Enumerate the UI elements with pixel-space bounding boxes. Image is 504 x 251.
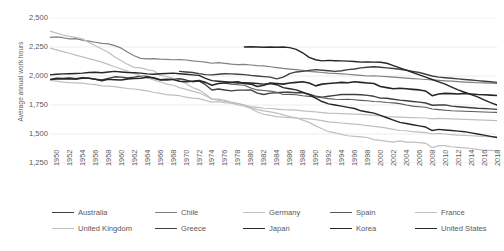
legend-item-chile[interactable]: Chile: [155, 209, 198, 217]
y-axis-tick-label: 2,250: [4, 43, 48, 51]
legend-swatch-icon: [330, 212, 352, 213]
legend-swatch-icon: [243, 212, 265, 213]
x-axis-tick-label: 1964: [144, 150, 151, 166]
x-axis-tick-label: 2010: [442, 150, 449, 166]
y-axis-tick-label: 2,500: [4, 14, 48, 22]
x-axis-tick-label: 1958: [105, 150, 112, 166]
legend-item-japan[interactable]: Japan: [243, 225, 290, 233]
legend-swatch-icon: [330, 228, 352, 229]
legend-label: Chile: [181, 209, 198, 217]
legend-item-greece[interactable]: Greece: [155, 225, 206, 233]
x-axis-tick-label: 2000: [377, 150, 384, 166]
legend-row: United KingdomGreeceJapanKoreaUnited Sta…: [0, 222, 504, 239]
legend-swatch-icon: [52, 228, 74, 229]
y-axis-tick-label: 1,500: [4, 130, 48, 138]
legend-label: Australia: [78, 209, 108, 217]
x-axis-tick-label: 1952: [66, 150, 73, 166]
x-axis-tick-label: 2004: [403, 150, 410, 166]
y-axis-tick-label: 1,750: [4, 101, 48, 109]
legend-swatch-icon: [415, 212, 437, 213]
legend-item-germany[interactable]: Germany: [243, 209, 300, 217]
plot-svg: [50, 18, 497, 163]
work-hours-line-chart: Average annual work hours 2,5002,2502,00…: [0, 0, 504, 251]
legend-swatch-icon: [243, 228, 265, 229]
x-axis-tick-label: 2018: [494, 150, 501, 166]
y-axis-tick-label: 2,000: [4, 72, 48, 80]
x-axis-tick-label: 2014: [468, 150, 475, 166]
legend-label: France: [441, 209, 465, 217]
legend-swatch-icon: [155, 212, 177, 213]
legend-label: Korea: [356, 225, 376, 233]
series-line-germany: [50, 31, 497, 151]
x-axis-tick-label: 2008: [429, 150, 436, 166]
y-axis-tick-label: 1,250: [4, 159, 48, 167]
x-axis-tick-label: 1966: [157, 150, 164, 166]
plot-area: [50, 18, 497, 163]
x-axis-tick-label: 1970: [183, 150, 190, 166]
x-axis-tick-label: 2012: [455, 150, 462, 166]
x-axis-tick-label: 1960: [118, 150, 125, 166]
series-line-australia: [50, 76, 497, 109]
x-axis-tick-label: 1954: [79, 150, 86, 166]
x-axis-tick-label: 1992: [325, 150, 332, 166]
chart-legend: AustraliaChileGermanySpainFranceUnited K…: [0, 206, 504, 248]
x-axis-tick-label: 1996: [351, 150, 358, 166]
x-axis-tick-label: 2002: [390, 150, 397, 166]
legend-swatch-icon: [155, 228, 177, 229]
x-axis-tick-label: 1974: [208, 150, 215, 166]
x-axis-tick-label: 1956: [92, 150, 99, 166]
y-axis-title: Average annual work hours: [17, 17, 24, 147]
legend-row: AustraliaChileGermanySpainFrance: [0, 206, 504, 223]
legend-item-united-states[interactable]: United States: [415, 225, 487, 233]
x-axis-tick-labels: 1950195219541956195819601962196419661968…: [50, 166, 497, 202]
x-axis-tick-label: 1984: [273, 150, 280, 166]
x-axis-tick-label: 1998: [364, 150, 371, 166]
legend-label: Greece: [181, 225, 206, 233]
legend-label: Spain: [356, 209, 375, 217]
x-axis-tick-label: 1986: [286, 150, 293, 166]
legend-swatch-icon: [415, 228, 437, 229]
legend-swatch-icon: [52, 212, 74, 213]
legend-label: Germany: [269, 209, 300, 217]
x-axis-tick-label: 1962: [131, 150, 138, 166]
x-axis-tick-label: 1968: [170, 150, 177, 166]
legend-item-france[interactable]: France: [415, 209, 465, 217]
legend-label: United Kingdom: [78, 225, 132, 233]
x-axis-tick-label: 1994: [338, 150, 345, 166]
x-axis-tick-label: 1950: [53, 150, 60, 166]
x-axis-tick-label: 2006: [416, 150, 423, 166]
x-axis-tick-label: 2016: [481, 150, 488, 166]
x-axis-tick-label: 1980: [247, 150, 254, 166]
x-axis-tick-label: 1982: [260, 150, 267, 166]
legend-item-united-kingdom[interactable]: United Kingdom: [52, 225, 132, 233]
x-axis-tick-label: 1976: [221, 150, 228, 166]
legend-label: Japan: [269, 225, 290, 233]
x-axis-tick-label: 1978: [234, 150, 241, 166]
legend-item-australia[interactable]: Australia: [52, 209, 108, 217]
legend-item-korea[interactable]: Korea: [330, 225, 376, 233]
legend-label: United States: [441, 225, 487, 233]
legend-item-spain[interactable]: Spain: [330, 209, 375, 217]
series-line-united-kingdom: [50, 81, 497, 121]
series-line-greece: [180, 67, 497, 83]
x-axis-tick-label: 1988: [299, 150, 306, 166]
x-axis-tick-label: 1990: [312, 150, 319, 166]
x-axis-tick-label: 1972: [196, 150, 203, 166]
